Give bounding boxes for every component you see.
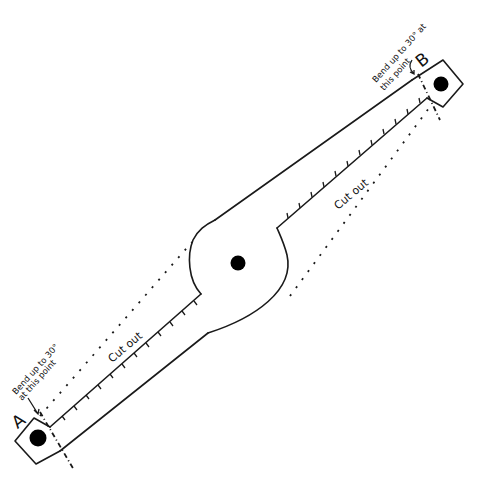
hole-a-icon bbox=[30, 430, 47, 447]
dotted-guide-left bbox=[40, 242, 192, 416]
template-diagram: A B Cut out Cut out Bend up to 30° at th… bbox=[0, 0, 493, 489]
bend-arrow-a-icon bbox=[28, 398, 39, 414]
cut-line-right bbox=[277, 98, 427, 228]
lower-edge-left bbox=[60, 333, 208, 451]
upper-edge-right bbox=[215, 80, 412, 220]
dotted-guide-right bbox=[290, 104, 432, 296]
cut-line-left bbox=[50, 294, 201, 427]
center-hole-icon bbox=[231, 256, 246, 271]
hole-b-icon bbox=[434, 77, 449, 92]
cut-out-right-label: Cut out bbox=[332, 176, 372, 212]
point-b-label: B bbox=[411, 48, 433, 71]
point-a-label: A bbox=[8, 409, 30, 432]
hub-right-arc bbox=[208, 228, 288, 333]
hub-left-arc bbox=[189, 220, 215, 294]
template-drawing: A B Cut out Cut out Bend up to 30° at th… bbox=[0, 0, 493, 489]
tick-marks-left bbox=[62, 301, 197, 420]
